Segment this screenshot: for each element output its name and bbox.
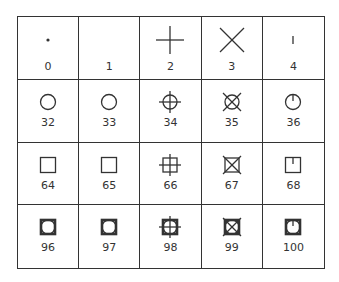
grid-cell-68: 68 [263, 143, 324, 206]
grid-cell-98: 98 [140, 205, 201, 268]
square-circle-icon [36, 215, 60, 239]
plus-icon [155, 25, 185, 55]
square-icon [36, 153, 60, 177]
grid-cell-32: 32 [18, 80, 79, 143]
square-cross-icon [220, 153, 244, 177]
dot-icon [33, 25, 63, 55]
tick-icon [278, 25, 308, 55]
square-plus-icon [158, 153, 182, 177]
cross-icon [217, 25, 247, 55]
cell-code: 97 [79, 241, 139, 254]
cell-code: 67 [202, 179, 262, 192]
square-circle-tick-icon [281, 215, 305, 239]
cell-code: 2 [140, 60, 200, 73]
cell-code: 100 [263, 241, 324, 254]
circle-icon [97, 90, 121, 114]
cell-code: 66 [140, 179, 200, 192]
grid-cell-99: 99 [202, 205, 263, 268]
grid-cell-2: 2 [140, 17, 201, 80]
square-circle-icon [97, 215, 121, 239]
circle-icon [36, 90, 60, 114]
grid-cell-97: 97 [79, 205, 140, 268]
cell-code: 0 [18, 60, 78, 73]
square-circle-plus-icon [158, 215, 182, 239]
grid-cell-67: 67 [202, 143, 263, 206]
grid-cell-96: 96 [18, 205, 79, 268]
grid-cell-4: 4 [263, 17, 324, 80]
cell-code: 32 [18, 116, 78, 129]
grid-cell-1: 1 [79, 17, 140, 80]
cell-code: 96 [18, 241, 78, 254]
cell-code: 33 [79, 116, 139, 129]
cell-code: 99 [202, 241, 262, 254]
cell-code: 64 [18, 179, 78, 192]
circle-plus-icon [158, 90, 182, 114]
cell-code: 65 [79, 179, 139, 192]
cell-code: 36 [263, 116, 324, 129]
cell-code: 3 [202, 60, 262, 73]
square-icon [97, 153, 121, 177]
circle-tick-icon [281, 90, 305, 114]
grid-cell-64: 64 [18, 143, 79, 206]
grid-cell-35: 35 [202, 80, 263, 143]
grid-cell-100: 100 [263, 205, 324, 268]
symbol-grid: 0 1 2 3 4 32 33 34 [17, 16, 325, 269]
grid-cell-66: 66 [140, 143, 201, 206]
cell-code: 35 [202, 116, 262, 129]
grid-cell-33: 33 [79, 80, 140, 143]
circle-cross-icon [220, 90, 244, 114]
cell-code: 98 [140, 241, 200, 254]
cell-code: 34 [140, 116, 200, 129]
square-circle-cross-icon [220, 215, 244, 239]
grid-cell-36: 36 [263, 80, 324, 143]
grid-cell-3: 3 [202, 17, 263, 80]
cell-code: 4 [263, 60, 324, 73]
cell-code: 1 [79, 60, 139, 73]
cell-code: 68 [263, 179, 324, 192]
square-tick-icon [281, 153, 305, 177]
grid-cell-0: 0 [18, 17, 79, 80]
grid-cell-34: 34 [140, 80, 201, 143]
grid-cell-65: 65 [79, 143, 140, 206]
